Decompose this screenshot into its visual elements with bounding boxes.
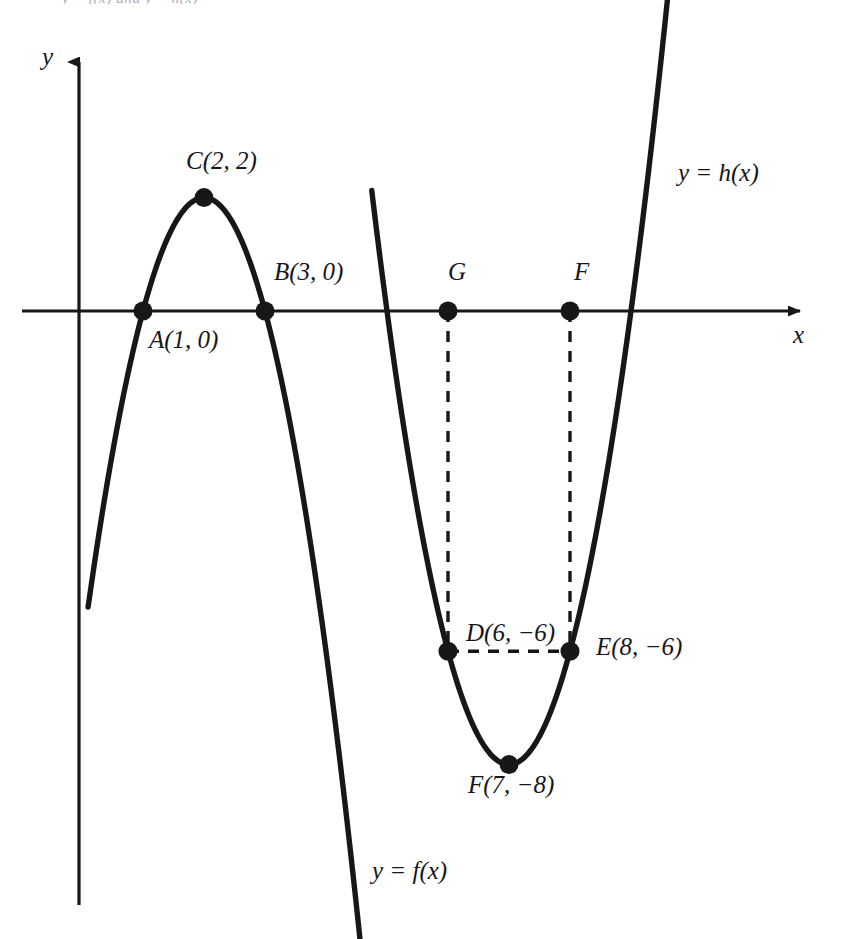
point-label-f-vertex: F(7, −8) — [468, 772, 554, 797]
point-label-d: D(6, −6) — [466, 620, 555, 645]
marked-point-e — [561, 642, 580, 661]
marked-point-g — [439, 302, 458, 321]
marked-point-d — [439, 642, 458, 661]
point-label-f-axis: F — [574, 259, 589, 284]
marked-points-group — [134, 188, 580, 774]
y-axis-label: y — [42, 44, 53, 69]
marked-point-fx — [561, 302, 580, 321]
marked-point-a — [134, 302, 153, 321]
curve-f-label: y = f(x) — [372, 858, 447, 883]
math-figure: y = f(x) and y = h(x) y x y = f(x) y = h — [0, 0, 842, 939]
marked-point-b — [256, 302, 275, 321]
point-label-a: A(1, 0) — [149, 327, 218, 352]
marked-point-c — [195, 188, 214, 207]
curve-h-label: y = h(x) — [678, 160, 759, 185]
point-label-e: E(8, −6) — [596, 634, 682, 659]
point-label-g-axis: G — [448, 259, 466, 284]
figure-canvas — [0, 0, 842, 939]
x-axis-label: x — [793, 322, 804, 347]
curves-group — [88, 0, 674, 939]
point-label-c: C(2, 2) — [186, 148, 257, 173]
dashed-construction-lines — [448, 311, 570, 651]
curve-f-of-x — [88, 198, 372, 939]
point-label-b: B(3, 0) — [274, 259, 343, 284]
